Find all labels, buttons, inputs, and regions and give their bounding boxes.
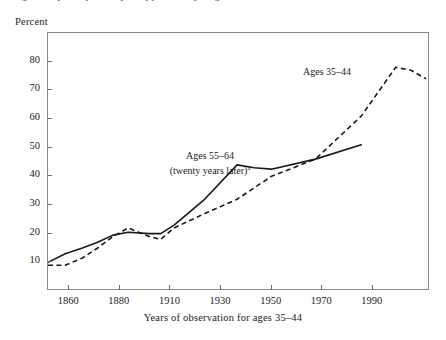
y-tick-mark [47,118,52,119]
x-tick-label: 1880 [96,295,142,306]
annotation-ages-55-64-line2: (twenty years later)a [150,162,270,177]
y-tick-mark [47,175,52,176]
x-tick-mark [220,285,221,290]
x-tick-label: 1990 [349,295,395,306]
x-tick-mark [372,285,373,290]
footnote-marker: a [247,164,250,171]
y-tick-mark [47,261,52,262]
y-tick-label: 30 [14,197,40,208]
y-tick-label: 40 [14,168,40,179]
x-tick-label: 1860 [45,295,91,306]
x-tick-mark [119,285,120,290]
x-tick-mark [68,285,69,290]
x-axis-caption: Years of observation for ages 35–44 [0,312,446,323]
y-tick-mark [47,89,52,90]
x-tick-label: 1910 [146,295,192,306]
y-tick-mark [47,204,52,205]
y-tick-label: 20 [14,226,40,237]
x-tick-mark [271,285,272,290]
annotation-ages-35-44-text: Ages 35–44 [303,66,351,77]
y-tick-mark [47,147,52,148]
x-tick-mark [169,285,170,290]
annotation-ages-55-64-line2-text: (twenty years later) [170,165,248,176]
figure-chart: figure caption partially cropped at top … [0,0,446,340]
cropped-caption-strip: figure caption partially cropped at top … [0,0,446,11]
y-tick-label: 10 [14,254,40,265]
annotation-ages-55-64-line1: Ages 55–64 [150,150,270,162]
x-tick-label: 1930 [197,295,243,306]
y-tick-label: 70 [14,82,40,93]
y-tick-label: 60 [14,111,40,122]
annotation-ages-55-64: Ages 55–64 (twenty years later)a [150,150,270,177]
y-tick-label: 80 [14,54,40,65]
y-axis-title: Percent [15,16,48,27]
y-tick-label: 50 [14,140,40,151]
x-tick-mark [321,285,322,290]
annotation-ages-35-44: Ages 35–44 [303,66,351,78]
x-tick-label: 1950 [248,295,294,306]
y-tick-mark [47,61,52,62]
x-tick-label: 1970 [298,295,344,306]
y-tick-mark [47,233,52,234]
